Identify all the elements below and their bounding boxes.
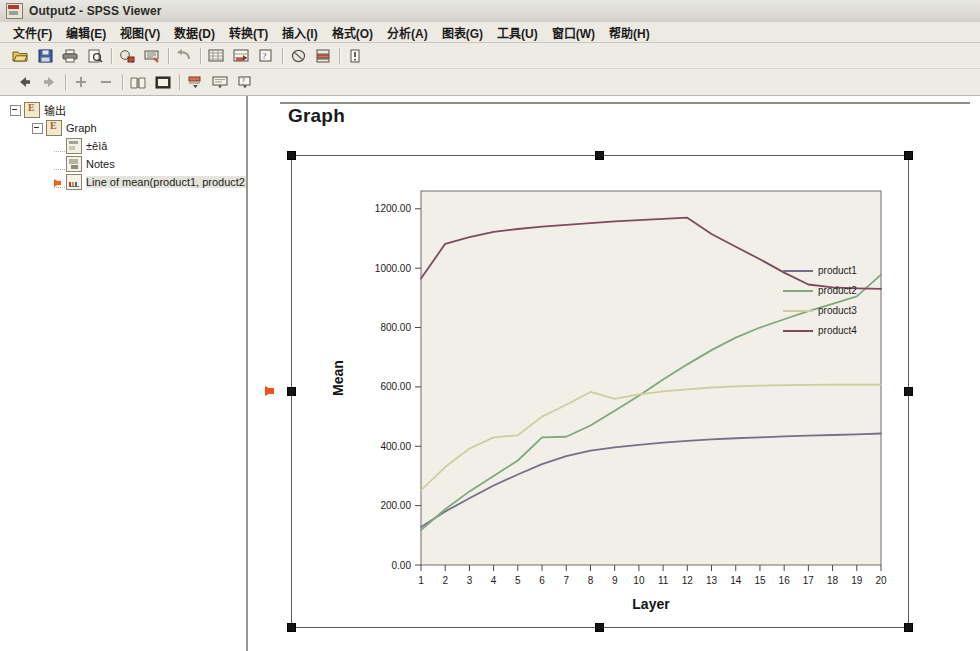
resize-handle-e[interactable] (904, 387, 913, 396)
menu-utilities[interactable]: 工具(U) (490, 22, 545, 43)
print-icon[interactable] (58, 44, 82, 67)
notes-icon (66, 156, 82, 172)
resize-handle-s[interactable] (595, 623, 604, 632)
toolbar-separator (108, 47, 115, 65)
toolbar-separator (279, 47, 286, 65)
collapse-icon[interactable] (94, 71, 118, 94)
menu-format[interactable]: 格式(O) (325, 22, 380, 43)
outline-node-title[interactable]: ±êìâ (0, 137, 246, 155)
insert-text-icon[interactable]: ? (233, 71, 257, 94)
toolbar-separator (197, 47, 204, 65)
selection-box (291, 155, 909, 628)
menu-transform[interactable]: 转换(T) (222, 22, 275, 43)
resize-handle-se[interactable] (904, 623, 913, 632)
svg-text:?: ? (262, 51, 266, 61)
resize-handle-w[interactable] (287, 387, 296, 396)
menu-analyze[interactable]: 分析(A) (380, 22, 435, 43)
menu-help[interactable]: 帮助(H) (602, 22, 657, 43)
demote-forward-icon[interactable] (37, 71, 61, 94)
svg-text:?: ? (241, 76, 244, 85)
outline-node-notes[interactable]: Notes (0, 155, 246, 173)
tree-expander-icon[interactable] (10, 105, 21, 116)
menu-insert[interactable]: 插入(I) (275, 22, 324, 43)
outline-pane[interactable]: 输出Graph±êìâNotesLine of mean(product1, p… (0, 96, 248, 651)
viewer-document-pane[interactable]: Graph 0.00200.00400.00600.00800.001000.0… (250, 96, 980, 651)
outline-toolbar: ? (0, 69, 980, 96)
menu-view[interactable]: 视图(V) (113, 22, 167, 43)
promote-back-icon[interactable] (12, 71, 36, 94)
menu-data[interactable]: 数据(D) (167, 22, 222, 43)
print-preview-icon[interactable] (83, 44, 107, 67)
window-title: Output2 - SPSS Viewer (29, 4, 162, 18)
tree-connector (54, 142, 66, 151)
menu-graphs[interactable]: 图表(G) (435, 22, 490, 43)
open-file-icon[interactable] (8, 44, 32, 67)
resize-handle-nw[interactable] (287, 151, 296, 160)
output-icon (46, 120, 62, 136)
outline-node-graph[interactable]: Graph (0, 119, 246, 137)
goto-data-icon[interactable] (204, 44, 228, 67)
variables-icon[interactable]: ? (254, 44, 278, 67)
outline-node-chart[interactable]: Line of mean(product1, product2, p (0, 173, 246, 191)
edit-pointer-arrow-icon (265, 386, 274, 396)
insert-cases-icon[interactable] (311, 44, 335, 67)
output-icon (24, 102, 40, 118)
outline-node-notes-label: Notes (86, 158, 115, 170)
menu-edit[interactable]: 编辑(E) (59, 22, 113, 43)
outline-node-chart-label: Line of mean(product1, product2, p (86, 176, 248, 188)
toolbar-separator (165, 47, 172, 65)
toolbar-separator (336, 47, 343, 65)
outline-node-output-label: 输出 (44, 102, 66, 118)
find-icon[interactable] (286, 44, 310, 67)
spss-viewer-icon (6, 3, 23, 19)
title-bar: Output2 - SPSS Viewer (0, 0, 980, 23)
outline-node-title-label: ±êìâ (86, 140, 107, 152)
goto-case-icon[interactable] (229, 44, 253, 67)
heading-rule (280, 102, 970, 104)
expand-icon[interactable] (69, 71, 93, 94)
toolbar-separator (119, 73, 126, 91)
dialog-recall-list-icon[interactable] (140, 44, 164, 67)
tree-expander-icon[interactable] (32, 123, 43, 134)
use-sets-icon[interactable] (343, 44, 367, 67)
toolbar-separator (62, 73, 69, 91)
main-toolbar: ? (0, 43, 980, 69)
insert-title-icon[interactable] (208, 71, 232, 94)
show-book-icon[interactable] (126, 71, 150, 94)
menu-file[interactable]: 文件(F) (6, 22, 59, 43)
resize-handle-sw[interactable] (287, 623, 296, 632)
title-icon (66, 138, 82, 154)
insert-heading-icon[interactable] (183, 71, 207, 94)
undo-icon[interactable] (172, 44, 196, 67)
outline-node-output[interactable]: 输出 (0, 101, 246, 119)
menu-bar: 文件(F)编辑(E)视图(V)数据(D)转换(T)插入(I)格式(O)分析(A)… (0, 22, 980, 43)
save-icon[interactable] (33, 44, 57, 67)
outline-node-graph-label: Graph (66, 122, 97, 134)
outline-selection-arrow-icon (54, 179, 61, 187)
menu-window[interactable]: 窗口(W) (545, 22, 602, 43)
hide-panel-icon[interactable] (151, 71, 175, 94)
outline-tree: 输出Graph±êìâNotesLine of mean(product1, p… (0, 96, 246, 191)
toolbar-separator (176, 73, 183, 91)
tree-connector (54, 160, 66, 169)
recall-dialog-icon[interactable] (115, 44, 139, 67)
chart-icon (66, 174, 82, 190)
resize-handle-n[interactable] (595, 151, 604, 160)
spss-viewer-window: Output2 - SPSS Viewer 文件(F)编辑(E)视图(V)数据(… (0, 0, 980, 651)
resize-handle-ne[interactable] (904, 151, 913, 160)
page-title: Graph (288, 105, 345, 127)
